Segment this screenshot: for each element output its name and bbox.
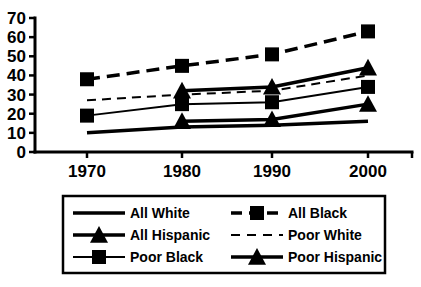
legend-sample-marker [92,250,106,264]
y-tick-label: 10 [7,124,26,143]
legend-item-label: Poor White [288,227,362,243]
y-tick-label: 0 [17,143,26,162]
x-tick-label: 1970 [68,162,106,181]
data-point-marker [175,97,189,111]
data-point-marker [80,109,94,123]
legend-item-label: All Hispanic [130,227,210,243]
chart-figure: 010203040506070 1970198019902000 All Whi… [0,0,421,287]
x-tick-label: 1980 [163,162,201,181]
data-point-marker [361,80,375,94]
data-point-marker [265,47,279,61]
legend-item-label: All White [130,205,190,221]
legend-item-poor-black[interactable]: Poor Black [73,249,203,265]
data-point-marker [265,95,279,109]
legend-item-label: All Black [288,205,347,221]
x-tick-label: 2000 [349,162,387,181]
y-tick-label: 60 [7,28,26,47]
y-tick-label: 70 [7,9,26,28]
y-tick-label: 50 [7,47,26,66]
legend-item-label: Poor Black [130,249,203,265]
legend-item-label: Poor Hispanic [288,249,382,265]
data-point-marker [175,59,189,73]
y-tick-label: 20 [7,105,26,124]
legend-sample-marker [250,206,264,220]
x-tick-label: 1990 [253,162,291,181]
chart-legend: All WhiteAll BlackAll HispanicPoor White… [63,196,385,273]
data-point-marker [361,24,375,38]
data-point-marker [80,72,94,86]
line-chart-canvas: 010203040506070 1970198019902000 All Whi… [0,0,421,287]
y-tick-label: 40 [7,66,26,85]
y-tick-label: 30 [7,86,26,105]
